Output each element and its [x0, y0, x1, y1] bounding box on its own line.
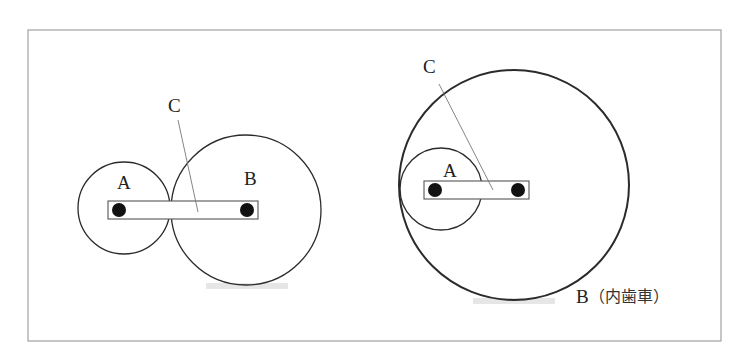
- left-label-b: B: [244, 169, 257, 188]
- right-label-b: B: [576, 287, 589, 306]
- right-label-c: C: [423, 57, 436, 76]
- label-layer: A B C A B （内歯車） C: [0, 0, 746, 360]
- left-label-c: C: [168, 96, 181, 115]
- left-label-a: A: [117, 173, 131, 192]
- right-label-a: A: [443, 161, 457, 180]
- right-label-b-note: （内歯車）: [589, 289, 669, 305]
